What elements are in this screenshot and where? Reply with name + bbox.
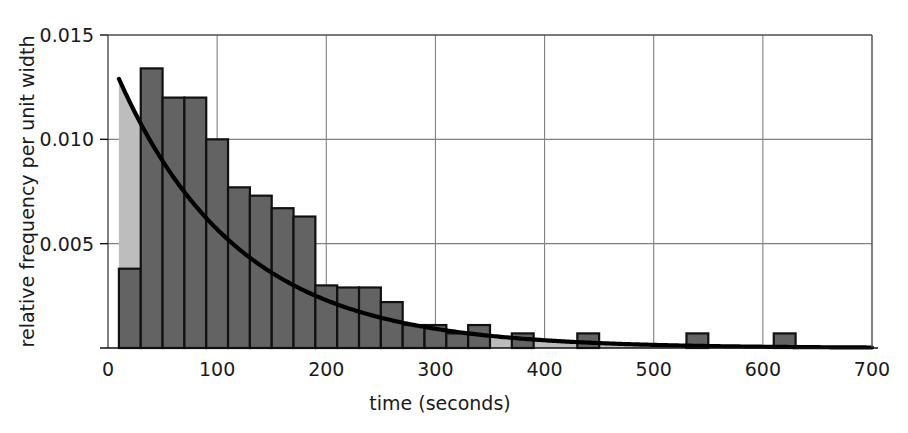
histogram-bar	[446, 333, 468, 348]
y-tick-marks	[100, 35, 108, 244]
x-tick-label: 700	[854, 358, 890, 380]
y-axis-title: relative frequency per unit width	[16, 36, 38, 348]
x-tick-label: 100	[199, 358, 235, 380]
histogram-bar	[206, 139, 228, 348]
x-tick-label: 200	[308, 358, 344, 380]
histogram-bar	[228, 187, 250, 348]
y-tick-labels: 0.0050.0100.015	[40, 24, 94, 255]
y-tick-label: 0.005	[40, 233, 94, 255]
figure-root: 01002003004005006007000.0050.0100.015tim…	[0, 0, 908, 433]
x-tick-labels: 0100200300400500600700	[102, 358, 890, 380]
histogram-bar	[315, 285, 337, 348]
x-tick-label: 500	[636, 358, 672, 380]
histogram-bar	[119, 269, 141, 348]
histogram-bar	[184, 98, 206, 348]
histogram-bar	[403, 325, 425, 348]
x-axis-title: time (seconds)	[369, 392, 510, 414]
y-tick-label: 0.015	[40, 24, 94, 46]
histogram-bar	[163, 98, 185, 348]
histogram-chart: 01002003004005006007000.0050.0100.015tim…	[0, 0, 908, 433]
y-tick-label: 0.010	[40, 128, 94, 150]
histogram-bar	[337, 287, 359, 348]
histogram-bar	[381, 302, 403, 348]
x-tick-label: 300	[417, 358, 453, 380]
x-tick-label: 600	[745, 358, 781, 380]
x-tick-label: 400	[526, 358, 562, 380]
x-tick-label: 0	[102, 358, 114, 380]
histogram-bar	[141, 68, 163, 348]
histogram-bars	[119, 68, 796, 348]
histogram-bar	[294, 217, 316, 348]
